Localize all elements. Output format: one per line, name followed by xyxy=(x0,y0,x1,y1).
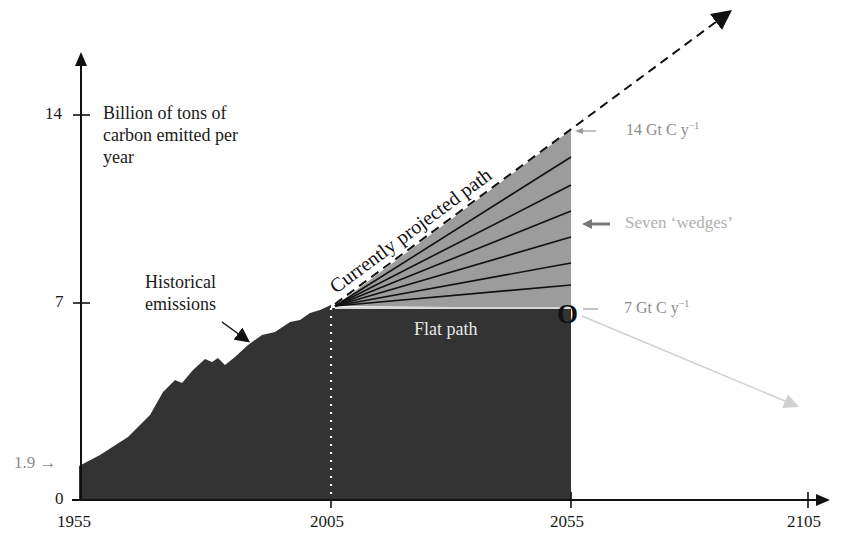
decline-arrow xyxy=(582,316,792,404)
annotation-7gt: 7 Gt C y−1 xyxy=(624,298,689,317)
y-axis-label-line: Billion of tons of xyxy=(103,102,238,124)
annotation-7gt-text: 7 Gt C y xyxy=(624,299,679,316)
annotation-14gt-text: 14 Gt C y xyxy=(626,121,689,138)
y-tick-label-14: 14 xyxy=(45,104,62,124)
flat-path-label: Flat path xyxy=(414,319,478,340)
y-axis-label-line: carbon emitted per xyxy=(103,124,238,146)
x-tick-label-1955: 1955 xyxy=(57,512,91,532)
annotation-7gt-sup: −1 xyxy=(679,298,690,309)
start-value-arrow-icon: → xyxy=(40,453,57,472)
historical-emissions-area xyxy=(79,305,331,500)
y-tick-label-7: 7 xyxy=(55,292,64,312)
y-tick-label-0: 0 xyxy=(55,489,64,509)
chart-container: Currently projected path O 14 7 0 1.9 → … xyxy=(0,0,845,552)
y-axis-label: Billion of tons of carbon emitted per ye… xyxy=(103,102,238,168)
start-value-label: 1.9 → xyxy=(14,453,57,473)
y-axis-arrowhead xyxy=(75,52,87,66)
historical-emissions-label: Historical emissions xyxy=(145,271,216,315)
x-tick-label-2055: 2055 xyxy=(550,512,584,532)
o-marker: O xyxy=(557,299,578,329)
x-axis-arrowhead xyxy=(816,494,830,506)
annotation-seven-wedges: Seven ‘wedges’ xyxy=(625,213,733,233)
historical-label-line: emissions xyxy=(145,293,216,315)
annotation-14gt-sup: −1 xyxy=(689,120,700,131)
arrow-14gt-head xyxy=(575,128,583,134)
annotation-14gt: 14 Gt C y−1 xyxy=(626,120,699,139)
y-axis-label-line: year xyxy=(103,146,238,168)
x-tick-label-2105: 2105 xyxy=(787,512,821,532)
start-value: 1.9 xyxy=(14,453,35,472)
historical-pointer-arrow xyxy=(222,322,244,338)
chart-svg: Currently projected path O xyxy=(0,0,845,552)
historical-label-line: Historical xyxy=(145,271,216,293)
x-tick-label-2005: 2005 xyxy=(310,512,344,532)
arrow-wedges-head xyxy=(582,219,592,229)
